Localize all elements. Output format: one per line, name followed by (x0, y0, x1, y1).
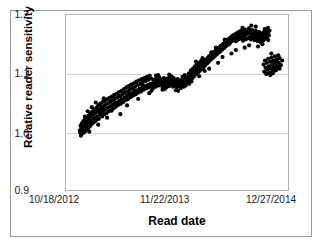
y-axis-tick-label: 1.2 (0, 9, 29, 20)
x-axis-tick-label: 11/22/2013 (140, 195, 189, 205)
x-axis-tick-label: 12/27/2014 (246, 195, 296, 205)
x-axis-title: Read date (65, 214, 289, 228)
y-axis-tick-label: 1.0 (0, 128, 29, 139)
figure-container: Relative reader sensitivity 1.2 1.1 1.0 … (10, 10, 312, 237)
x-axis-tick-label: 10/18/2012 (29, 195, 79, 205)
scatter-series (66, 15, 288, 190)
plot-area (65, 14, 289, 191)
y-axis-tick-label: 1.1 (0, 68, 29, 79)
y-axis-tick-label: 0.9 (0, 185, 29, 196)
